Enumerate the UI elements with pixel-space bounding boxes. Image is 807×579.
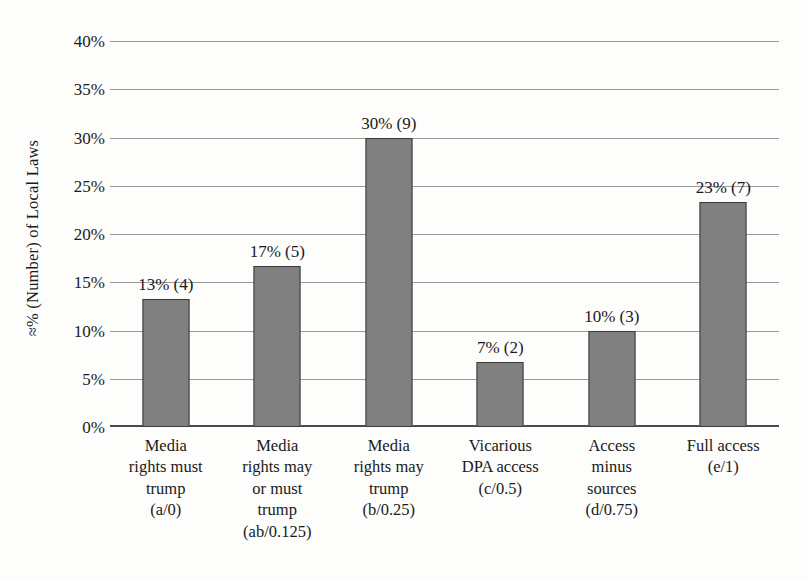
y-tick-5%: 5% [15,371,105,388]
bar-slot: 10% (3) [556,41,668,427]
bar[interactable] [142,299,189,427]
bar[interactable] [477,362,524,427]
bar-slot: 13% (4) [110,41,222,427]
bar[interactable] [700,202,747,427]
bar-value-label: 23% (7) [696,179,751,196]
y-tick-25%: 25% [15,178,105,195]
plot-area: 13% (4)17% (5)30% (9)7% (2)10% (3)23% (7… [110,41,779,427]
bar-value-label: 17% (5) [250,243,305,260]
x-category-label: Access minus sources (d/0.75) [556,435,668,521]
y-tick-30%: 30% [15,130,105,147]
bar-value-label: 10% (3) [584,308,639,325]
bar-slot: 17% (5) [222,41,334,427]
x-category-label: Vicarious DPA access (c/0.5) [445,435,557,499]
bar-value-label: 7% (2) [477,339,524,356]
x-category-label: Media rights may trump (b/0.25) [333,435,445,521]
bar[interactable] [254,266,301,427]
y-tick-40%: 40% [15,33,105,50]
bar[interactable] [588,331,635,428]
bar-slot: 23% (7) [668,41,780,427]
x-category-label: Media rights must trump (a/0) [110,435,222,521]
bar-value-label: 30% (9) [361,115,416,132]
y-tick-35%: 35% [15,81,105,98]
y-tick-10%: 10% [15,323,105,340]
y-tick-15%: 15% [15,274,105,291]
bar-value-label: 13% (4) [138,276,193,293]
y-tick-20%: 20% [15,226,105,243]
bar-slot: 7% (2) [445,41,557,427]
bar-chart: ≈% (Number) of Local Laws 0%5%10%15%20%2… [0,0,807,579]
bar-slot: 30% (9) [333,41,445,427]
bar[interactable] [365,138,412,428]
x-category-label: Full access (e/1) [668,435,780,478]
x-category-label: Media rights may or must trump (ab/0.125… [222,435,334,542]
y-tick-0%: 0% [15,419,105,436]
